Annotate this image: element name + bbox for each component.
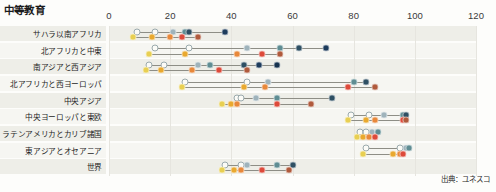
category-label-row: 北アフリカと中東: [0, 43, 106, 58]
data-point-marker: [222, 28, 229, 35]
category-label: 北アフリカと西ヨーロッパ: [10, 78, 102, 89]
data-point-marker: [359, 150, 366, 157]
data-point-marker: [350, 78, 357, 85]
page-title: 中等教育: [4, 2, 45, 17]
data-point-marker: [194, 62, 201, 69]
gridline-vertical: [109, 26, 110, 176]
dumbbell-connector: [133, 37, 197, 38]
dumbbell-connector: [137, 32, 226, 33]
data-point-marker: [329, 95, 336, 102]
category-label-row: 南アジアと西アジア: [0, 59, 106, 74]
data-point-marker: [295, 45, 302, 52]
category-label-row: 北アフリカと西ヨーロッパ: [0, 76, 106, 91]
category-label-row: 中央ヨーロッパと東欧: [0, 109, 106, 124]
data-point-marker: [179, 84, 186, 91]
gridline-vertical: [415, 26, 416, 176]
dumbbell-connector: [225, 165, 292, 166]
category-label-row: 東アジアとオセアニア: [0, 143, 106, 158]
data-point-marker: [274, 62, 281, 69]
plot-area: [109, 26, 476, 176]
source-note: 出典：ユネスコ: [441, 173, 490, 184]
data-point-marker: [243, 45, 250, 52]
data-point-marker: [258, 167, 265, 174]
data-point-marker: [194, 34, 201, 41]
data-point-marker: [362, 117, 369, 124]
data-point-marker: [344, 84, 351, 91]
category-label-row: 世界: [0, 159, 106, 174]
data-point-marker: [399, 150, 406, 157]
data-point-marker: [179, 34, 186, 41]
x-axis-tick-0: 0: [106, 10, 111, 21]
data-point-marker: [157, 67, 164, 74]
data-point-marker: [405, 145, 412, 152]
data-point-marker: [274, 100, 281, 107]
data-point-marker: [243, 162, 250, 169]
category-label: 世界: [87, 162, 102, 173]
data-point-marker: [142, 67, 149, 74]
data-point-marker: [307, 100, 314, 107]
data-point-marker: [206, 62, 213, 69]
dumbbell-connector: [351, 115, 406, 116]
y-axis-category-labels: サハラ以南アフリカ北アフリカと中東南アジアと西アジア北アフリカと西ヨーロッパ中央…: [0, 26, 108, 176]
x-axis-tick-100: 100: [407, 10, 423, 21]
data-point-marker: [167, 34, 174, 41]
data-point-marker: [258, 50, 265, 57]
category-label: 中央ヨーロッパと東欧: [25, 112, 102, 123]
data-point-marker: [216, 67, 223, 74]
chart-container: 中等教育 020406080100120 サハラ以南アフリカ北アフリカと中東南ア…: [0, 0, 496, 192]
data-point-marker: [219, 167, 226, 174]
category-label-row: サハラ以南アフリカ: [0, 26, 106, 41]
data-point-marker: [130, 34, 137, 41]
data-point-marker: [362, 78, 369, 85]
data-point-marker: [323, 45, 330, 52]
data-point-marker: [261, 84, 268, 91]
dumbbell-connector: [185, 82, 365, 83]
x-axis-tick-labels: 020406080100120: [109, 10, 476, 24]
category-label-row: ラテンアメリカとカリブ諸国: [0, 126, 106, 141]
x-axis-tick-120: 120: [468, 10, 484, 21]
category-label: サハラ以南アフリカ: [33, 28, 102, 39]
data-point-marker: [381, 112, 388, 119]
data-point-marker: [234, 50, 241, 57]
data-point-marker: [145, 50, 152, 57]
data-point-marker: [240, 84, 247, 91]
data-point-marker: [185, 28, 192, 35]
category-label: 東アジアとオセアニア: [25, 145, 102, 156]
data-point-marker: [372, 117, 379, 124]
data-point-marker: [219, 100, 226, 107]
data-point-marker: [237, 167, 244, 174]
data-point-marker: [255, 62, 262, 69]
category-label-row: 中央アジア: [0, 93, 106, 108]
x-axis-tick-60: 60: [287, 10, 298, 21]
category-label: 中央アジア: [64, 95, 102, 106]
data-point-marker: [286, 167, 293, 174]
category-label: ラテンアメリカとカリブ諸国: [2, 128, 102, 139]
data-point-marker: [274, 162, 281, 169]
x-axis-tick-20: 20: [165, 10, 176, 21]
data-point-marker: [234, 100, 241, 107]
gridline-vertical: [476, 26, 477, 176]
category-label: 南アジアと西アジア: [33, 62, 102, 73]
data-point-marker: [188, 67, 195, 74]
data-point-marker: [252, 95, 259, 102]
data-point-marker: [243, 67, 250, 74]
data-point-marker: [182, 50, 189, 57]
data-point-marker: [277, 50, 284, 57]
data-point-marker: [372, 84, 379, 91]
data-point-marker: [402, 117, 409, 124]
category-label: 北アフリカと中東: [41, 45, 102, 56]
gridline-vertical: [354, 26, 355, 176]
data-point-marker: [344, 117, 351, 124]
data-point-marker: [151, 45, 158, 52]
x-axis-tick-40: 40: [226, 10, 237, 21]
x-axis-tick-80: 80: [348, 10, 359, 21]
data-point-marker: [372, 134, 379, 141]
data-point-marker: [148, 34, 155, 41]
